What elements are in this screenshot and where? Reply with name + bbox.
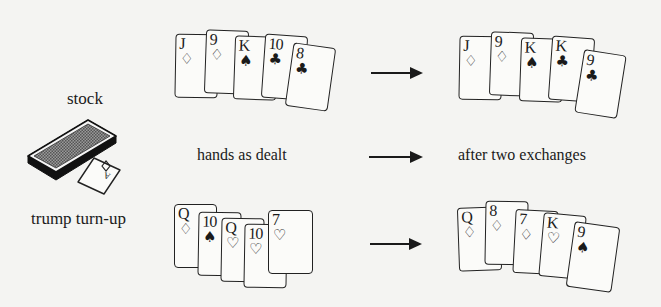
diamond-suit-icon: ♢: [519, 227, 533, 243]
trump-turnup-label: trump turn-up: [31, 209, 126, 229]
card-bottom-after-5: 9 ♠: [566, 221, 621, 293]
diamond-suit-icon: ♢: [180, 52, 194, 67]
card-bottom-dealt-5: 7 ♡: [268, 210, 313, 274]
stock-deck-icon: A: [20, 110, 130, 200]
heart-suit-icon: ♡: [546, 231, 561, 247]
diamond-suit-icon: ♢: [210, 47, 224, 62]
after-two-exchanges-label: after two exchanges: [458, 146, 586, 164]
spade-suit-icon: ♠: [575, 240, 590, 257]
arrow-bottom: [370, 243, 420, 245]
club-suit-icon: ♣: [268, 52, 282, 68]
heart-suit-icon: ♡: [249, 242, 263, 257]
spade-suit-icon: ♠: [525, 55, 539, 70]
diamond-suit-icon: ♢: [179, 222, 192, 237]
card-top-dealt-5: 8 ♣: [285, 42, 336, 111]
spade-suit-icon: ♠: [203, 230, 217, 245]
club-suit-icon: ♣: [294, 61, 309, 78]
spade-suit-icon: ♠: [239, 53, 253, 68]
diamond-suit-icon: ♢: [464, 54, 478, 69]
diamond-suit-icon: ♢: [490, 219, 504, 234]
arrow-top: [371, 72, 421, 74]
club-suit-icon: ♣: [555, 54, 569, 70]
trump-card: A: [78, 158, 120, 194]
card-top-after-5: 9 ♣: [574, 49, 626, 119]
heart-suit-icon: ♡: [226, 236, 240, 251]
arrow-middle: [369, 156, 421, 158]
stock-label: stock: [67, 89, 103, 109]
heart-suit-icon: ♡: [273, 228, 286, 243]
diamond-suit-icon: ♢: [495, 49, 509, 64]
hands-as-dealt-label: hands as dealt: [197, 146, 287, 164]
diamond-suit-icon: ♢: [463, 225, 477, 240]
club-suit-icon: ♣: [584, 68, 600, 85]
